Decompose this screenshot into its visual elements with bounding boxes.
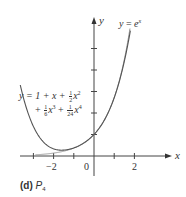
figure-caption: (d) P4 [20, 180, 46, 192]
poly-line2-plus2: + [58, 104, 64, 115]
exp-label-eq: = [126, 18, 132, 29]
poly-label-line1: y = 1 + x + 12x2 [19, 90, 81, 103]
caption-sub: 4 [42, 186, 45, 192]
poly-line2-plus1: + [35, 104, 41, 115]
poly-frac-sixth: 16 [44, 104, 47, 117]
x-tick-label-2: 2 [132, 162, 137, 172]
caption-label: (d) [20, 180, 33, 191]
x-axis-arrow-icon [165, 154, 172, 159]
y-axis-arrow-icon [92, 17, 97, 24]
exp-label-y: y [119, 18, 123, 29]
frac-den: 2 [69, 97, 72, 103]
poly-line1-prefix: y = 1 + x + [19, 90, 66, 101]
frac-num: 1 [44, 104, 47, 111]
exp-label-pow: x [139, 18, 142, 24]
poly-frac-half: 12 [69, 90, 72, 103]
frac-den: 6 [44, 111, 47, 117]
x-axis-label: x [175, 150, 180, 161]
poly-line2-pow1: 3 [53, 104, 56, 110]
poly-frac-24th: 124 [67, 104, 73, 117]
x-tick-label-0: 0 [84, 162, 89, 172]
poly-line2-pow2: 4 [79, 104, 82, 110]
exp-curve-label: y = ex [119, 18, 141, 29]
frac-num: 1 [67, 104, 73, 111]
frac-den: 24 [67, 111, 73, 117]
y-axis-label: y [99, 15, 104, 26]
poly-label-line2: + 16x3 + 124x4 [35, 104, 82, 117]
poly-line1-pow: 2 [78, 90, 81, 96]
frac-num: 1 [69, 90, 72, 97]
x-tick-label-neg2: −2 [46, 162, 57, 172]
